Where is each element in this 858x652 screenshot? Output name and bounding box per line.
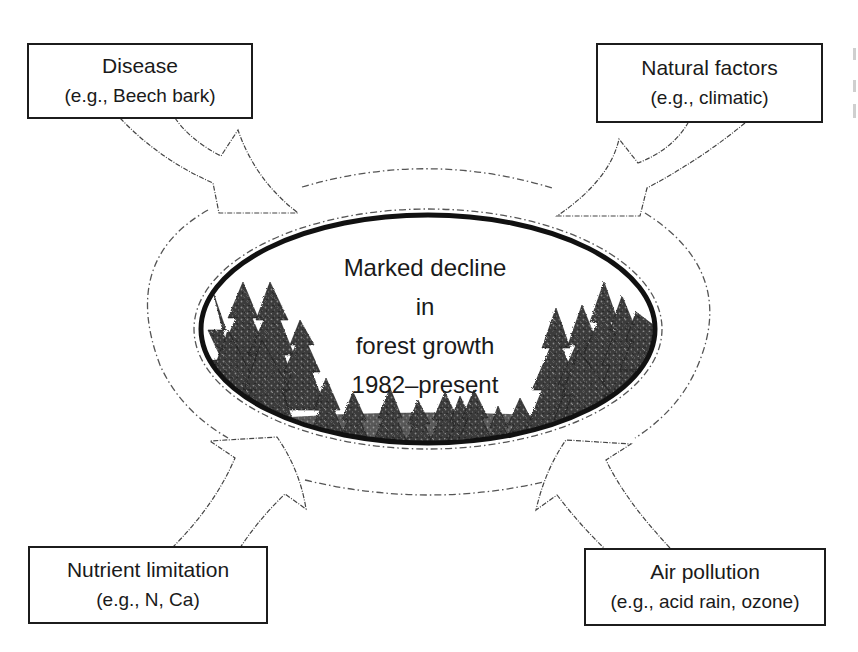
factor-example: (e.g., Beech bark) [64,83,215,109]
factor-box-nutrient-limitation: Nutrient limitation (e.g., N, Ca) [28,546,268,624]
factor-example: (e.g., acid rain, ozone) [610,589,799,615]
arrow-nutrient [172,437,306,548]
center-line-2: in [300,287,550,326]
arrow-disease [120,118,298,213]
cropped-edge-marks [853,48,856,118]
factor-title: Air pollution [650,559,760,585]
factor-example: (e.g., N, Ca) [96,587,199,613]
center-line-1: Marked decline [300,248,550,287]
factor-box-natural-factors: Natural factors (e.g., climatic) [596,43,823,123]
factor-title: Disease [102,53,178,79]
arrow-air [536,440,670,548]
factor-title: Nutrient limitation [67,557,229,583]
center-label: Marked decline in forest growth 1982–pre… [300,248,550,404]
factor-box-air-pollution: Air pollution (e.g., acid rain, ozone) [584,548,826,626]
arrow-natural [557,123,745,216]
center-line-4: 1982–present [300,365,550,404]
factor-box-disease: Disease (e.g., Beech bark) [27,43,253,119]
factor-title: Natural factors [641,55,778,81]
factor-example: (e.g., climatic) [650,85,768,111]
center-line-3: forest growth [300,326,550,365]
